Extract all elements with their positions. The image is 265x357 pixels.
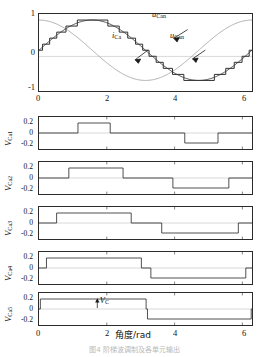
y-axis-title-sub: Ca3 xyxy=(6,221,13,231)
v-ca4-plot-frame xyxy=(38,251,253,285)
top-plot-frame xyxy=(38,13,253,92)
y-axis-title-sub: Ca2 xyxy=(6,176,13,186)
v-ca2-ytick-2: -0.2 xyxy=(11,185,33,193)
step-waveform-v_ca1 xyxy=(39,123,252,143)
v-ca5-ytick-0: 0.2 xyxy=(14,294,33,302)
annotation-u-can-stepped-sub: Can xyxy=(156,13,166,19)
v-ca1-ytick-0: 0.2 xyxy=(14,118,33,126)
v-ca3-plot-frame xyxy=(38,206,253,240)
v-ca3-ytick-1: 0 xyxy=(14,219,33,227)
annotation-vc-sub: C xyxy=(105,299,109,305)
top-ytick-minus1: -1 xyxy=(18,83,35,92)
v-ca4-ytick-0: 0.2 xyxy=(14,253,33,261)
top-xtick-0: 0 xyxy=(32,94,44,103)
curve-u-can-sine xyxy=(39,20,252,80)
v-ca3-ytick-2: -0.2 xyxy=(11,230,33,238)
y-axis-title-sub: Ca1 xyxy=(6,131,13,141)
annotation-u-can-sine-sub: Can xyxy=(174,34,184,40)
v-ca5-axis-title: VCa5 xyxy=(3,307,13,322)
y-axis-title-sub: Ca4 xyxy=(6,266,13,276)
panel-v-ca1: 0.20-0.2VCa1 xyxy=(0,116,265,166)
top-xtick-4: 4 xyxy=(169,94,181,103)
v-ca5-ytick-2: -0.2 xyxy=(11,316,33,324)
v-ca1-plot-frame xyxy=(38,116,253,150)
y-axis-title-main: V xyxy=(3,186,13,191)
y-axis-title-main: V xyxy=(3,276,13,281)
annotation-i-ca-sub: Ca xyxy=(114,34,121,40)
v-ca1-ytick-2: -0.2 xyxy=(11,140,33,148)
v-ca4-ytick-1: 0 xyxy=(14,264,33,272)
v-ca3-ytick-0: 0.2 xyxy=(14,208,33,216)
v-ca4-ytick-2: -0.2 xyxy=(11,275,33,283)
v-ca5-plot-frame xyxy=(38,292,253,326)
panel-top-waveforms: 1 0 -1 0 2 4 6 uCan iCa uCan xyxy=(0,0,265,108)
top-xtick-6: 6 xyxy=(238,94,250,103)
annotation-u-can-stepped: uCan xyxy=(152,10,166,19)
panel-v-ca2: 0.20-0.2VCa2 xyxy=(0,161,265,211)
annotation-i-ca: iCa xyxy=(112,31,121,40)
v-ca1-canvas xyxy=(39,117,252,149)
figure-caption: 图4 阶梯波调制及各单元输出 xyxy=(42,344,227,354)
v-ca2-ytick-0: 0.2 xyxy=(14,163,33,171)
v-ca2-plot-frame xyxy=(38,161,253,195)
top-ytick-1: 1 xyxy=(20,9,35,18)
v-ca1-axis-title: VCa1 xyxy=(3,131,13,146)
top-plot-canvas xyxy=(39,14,252,91)
top-ytick-0: 0 xyxy=(20,48,35,57)
v-ca5-ytick-1: 0 xyxy=(14,305,33,313)
v-ca3-canvas xyxy=(39,207,252,239)
v-ca2-ytick-1: 0 xyxy=(14,174,33,182)
top-xtick-2: 2 xyxy=(101,94,113,103)
bottom-xtick-6: 6 xyxy=(238,329,250,338)
panel-v-ca3: 0.20-0.2VCa3 xyxy=(0,206,265,256)
y-axis-title-main: V xyxy=(3,231,13,236)
v-ca2-canvas xyxy=(39,162,252,194)
v-ca5-canvas xyxy=(39,293,252,325)
x-axis-title: 角度/rad xyxy=(88,328,178,341)
bottom-xtick-0: 0 xyxy=(32,329,44,338)
v-ca4-canvas xyxy=(39,252,252,284)
y-axis-title-main: V xyxy=(3,141,13,146)
v-ca1-ytick-1: 0 xyxy=(14,129,33,137)
annotation-arrow-vc xyxy=(95,298,99,308)
annotation-u-can-sine: uCan xyxy=(170,31,184,40)
y-axis-title-main: V xyxy=(3,317,13,322)
y-axis-title-sub: Ca5 xyxy=(6,307,13,317)
v-ca4-axis-title: VCa4 xyxy=(3,266,13,281)
annotation-vc: VC xyxy=(100,296,109,305)
v-ca2-axis-title: VCa2 xyxy=(3,176,13,191)
v-ca3-axis-title: VCa3 xyxy=(3,221,13,236)
figure-container: 1 0 -1 0 2 4 6 uCan iCa uCan 0.20-0.2VCa… xyxy=(0,0,265,357)
